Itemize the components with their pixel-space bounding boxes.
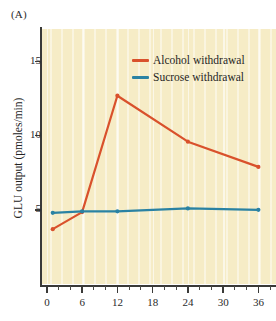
legend-label-alcohol-withdrawal: Alcohol withdrawal bbox=[153, 54, 245, 66]
data-point-sucrose-withdrawal bbox=[256, 208, 260, 212]
legend-item-alcohol-withdrawal[interactable]: Alcohol withdrawal bbox=[132, 53, 245, 67]
series-layer bbox=[0, 0, 276, 321]
chart-legend: Alcohol withdrawal Sucrose withdrawal bbox=[132, 53, 245, 84]
data-point-sucrose-withdrawal bbox=[115, 209, 119, 213]
data-point-sucrose-withdrawal bbox=[80, 209, 84, 213]
legend-swatch-alcohol-withdrawal bbox=[132, 59, 149, 62]
data-point-alcohol-withdrawal bbox=[51, 227, 55, 231]
data-point-alcohol-withdrawal bbox=[256, 165, 260, 169]
figure-panel-a: (A) GLU output (pmoles/min) 51015 061218… bbox=[0, 0, 276, 321]
data-point-alcohol-withdrawal bbox=[186, 140, 190, 144]
legend-item-sucrose-withdrawal[interactable]: Sucrose withdrawal bbox=[132, 70, 245, 84]
legend-swatch-sucrose-withdrawal bbox=[132, 76, 149, 79]
data-point-alcohol-withdrawal bbox=[115, 94, 119, 98]
data-point-sucrose-withdrawal bbox=[186, 206, 190, 210]
legend-label-sucrose-withdrawal: Sucrose withdrawal bbox=[153, 71, 244, 83]
data-point-sucrose-withdrawal bbox=[51, 211, 55, 215]
